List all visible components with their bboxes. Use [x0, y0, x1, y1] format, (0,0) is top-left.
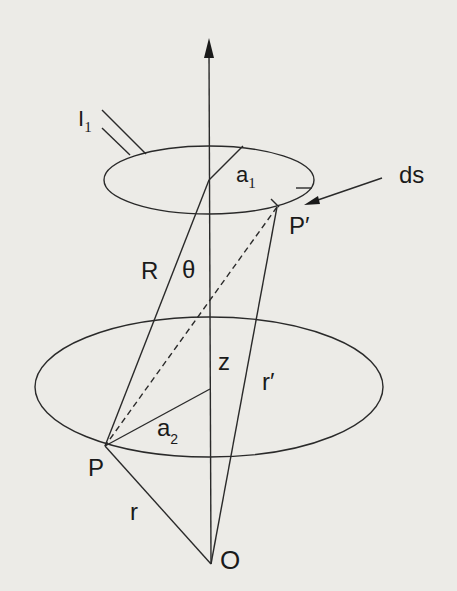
z-axis-arrowhead-icon: [204, 38, 214, 58]
label-z: z: [218, 350, 230, 374]
label-P: P: [88, 456, 104, 480]
label-R: R: [141, 259, 158, 283]
current-lead-2: [102, 128, 130, 155]
ds-arrow-line: [312, 178, 382, 202]
diagram-canvas: I1 a1 ds P′ R θ z r′ a2 P r O: [0, 0, 457, 591]
label-a1-main: a: [236, 162, 248, 187]
label-r-prime: r′: [262, 370, 275, 394]
z-axis-line: [209, 52, 211, 564]
label-a2-sub: 2: [170, 431, 178, 447]
label-a2-main: a: [157, 414, 170, 441]
label-a2: a2: [157, 416, 178, 440]
label-theta: θ: [182, 258, 195, 282]
dashed-line-P-prime-to-P: [105, 207, 277, 446]
label-O: O: [220, 547, 240, 573]
label-I1: I1: [78, 108, 92, 130]
ds-arrowhead-icon: [304, 196, 320, 205]
r-line: [105, 446, 211, 564]
label-I1-sub: 1: [84, 119, 92, 135]
label-r: r: [130, 500, 138, 524]
R-line: [105, 180, 209, 446]
label-a1-sub: 1: [248, 175, 256, 191]
diagram-drawing: [0, 0, 457, 591]
label-P-prime: P′: [289, 214, 310, 238]
lower-loop: [35, 317, 383, 457]
current-lead-1: [102, 110, 146, 154]
label-a1: a1: [236, 164, 256, 186]
label-ds: ds: [399, 163, 424, 187]
